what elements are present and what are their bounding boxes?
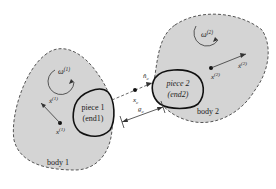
body-1-label: body 1 [47,158,69,167]
contact-normal-line [112,83,152,100]
piece-2-label: piece 2 [166,79,190,88]
contact-point-label: xc [132,96,139,105]
contact-diagram: ω(1) ω(2) x(1) ẋ(1) x(2) ẋ(2) piece 1 (e… [0,0,276,189]
contact-point [133,88,137,92]
gap-label: gc [138,105,145,114]
normal-label: n̂c [143,72,150,81]
body-2-label: body 2 [197,107,219,116]
piece-2-sublabel: (end2) [168,90,189,99]
piece-1-sublabel: (end1) [83,114,104,123]
piece-1-label: piece 1 [82,103,105,112]
